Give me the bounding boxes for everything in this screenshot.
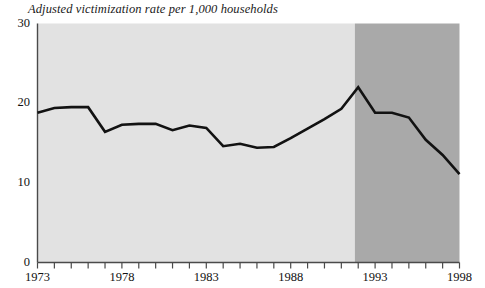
light-band — [38, 24, 355, 263]
x-axis-tick-label: 1983 — [184, 270, 228, 285]
y-axis-tick-label: 20 — [4, 95, 30, 110]
dark-band — [355, 24, 460, 263]
x-axis-tick-label: 1978 — [100, 270, 144, 285]
x-axis-tick-label: 1993 — [353, 270, 397, 285]
y-axis-tick-label: 30 — [4, 16, 30, 31]
y-axis-tick-label: 0 — [4, 255, 30, 270]
x-axis-tick-label: 1973 — [16, 270, 60, 285]
x-axis-tick-label: 1988 — [269, 270, 313, 285]
x-axis-tick-label: 1998 — [438, 270, 482, 285]
y-axis-tick-label: 10 — [4, 175, 30, 190]
plot-area: 0102030197319781983198819931998 — [0, 0, 485, 288]
figure: Adjusted victimization rate per 1,000 ho… — [0, 0, 485, 288]
line-chart — [0, 0, 485, 288]
